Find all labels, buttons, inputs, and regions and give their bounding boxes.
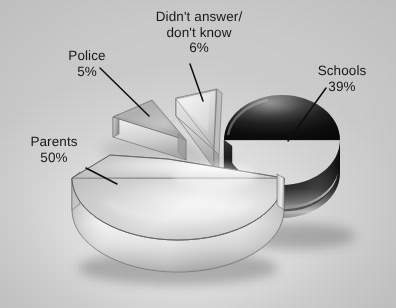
parents-slice-specular-blob	[173, 163, 257, 189]
slice-percent-didnt-answer: 6%	[141, 40, 257, 56]
slice-percent-parents: 50%	[16, 150, 92, 166]
schools-slice-top-highlight	[224, 95, 340, 140]
slice-label-schools: Schools 39%	[304, 63, 380, 94]
slice-label-parents: Parents 50%	[16, 134, 92, 165]
slice-label-police: Police 5%	[56, 48, 118, 79]
slice-percent-schools: 39%	[304, 79, 380, 95]
slice-label-police-line1: Police	[68, 48, 105, 63]
slice-percent-police: 5%	[56, 64, 118, 80]
slice-label-didnt-answer-line1: Didn't answer/	[156, 9, 243, 24]
slice-label-didnt-answer-line2: don't know	[166, 25, 231, 40]
pie-chart-image: Didn't answer/ don't know 6% Police 5% P…	[0, 0, 396, 308]
slice-label-didnt-answer: Didn't answer/ don't know 6%	[141, 9, 257, 56]
slice-label-schools-line1: Schools	[318, 63, 367, 78]
slice-label-parents-line1: Parents	[30, 134, 77, 149]
parents-slice-right-cut-wall	[277, 174, 284, 210]
pie-slice-parents	[72, 155, 284, 272]
